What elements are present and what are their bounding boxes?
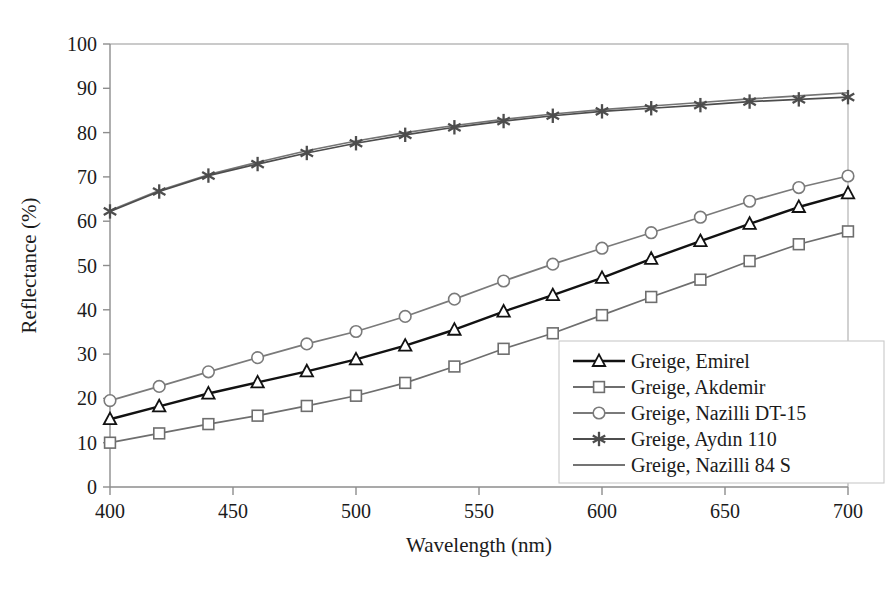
data-point-marker xyxy=(645,227,657,239)
data-point-marker xyxy=(154,428,165,439)
data-point-marker xyxy=(153,381,165,393)
y-axis-title: Reflectance (%) xyxy=(17,198,41,334)
data-point-marker xyxy=(793,182,805,194)
x-axis-title: Wavelength (nm) xyxy=(406,533,552,557)
y-tick-label: 0 xyxy=(87,476,97,498)
series-line xyxy=(110,97,848,211)
legend-item-label: Greige, Emirel xyxy=(631,350,750,373)
data-point-marker xyxy=(646,292,657,303)
x-tick-label: 400 xyxy=(95,500,125,522)
y-tick-label: 90 xyxy=(77,77,97,99)
y-tick-label: 20 xyxy=(77,387,97,409)
y-tick-label: 10 xyxy=(77,432,97,454)
data-point-marker xyxy=(842,170,854,182)
legend-item-label: Greige, Nazilli 84 S xyxy=(631,454,791,477)
series-line xyxy=(110,93,848,211)
data-point-marker xyxy=(104,395,116,407)
series-3 xyxy=(104,90,854,219)
legend-item-label: Greige, Akdemir xyxy=(631,376,766,399)
y-tick-label: 30 xyxy=(77,343,97,365)
y-tick-label: 80 xyxy=(77,122,97,144)
data-point-marker xyxy=(593,407,605,419)
x-tick-label: 700 xyxy=(833,500,863,522)
data-point-marker xyxy=(449,293,461,305)
data-point-marker xyxy=(744,256,755,267)
data-point-marker xyxy=(596,242,608,254)
data-point-marker xyxy=(744,195,756,207)
y-tick-label: 70 xyxy=(77,166,97,188)
data-point-marker xyxy=(695,211,707,223)
data-point-marker xyxy=(400,377,411,388)
data-point-marker xyxy=(105,437,116,448)
x-tick-label: 450 xyxy=(218,500,248,522)
data-point-marker xyxy=(449,361,460,372)
series-4 xyxy=(110,93,848,211)
data-point-marker xyxy=(252,410,263,421)
data-point-marker xyxy=(843,226,854,237)
data-point-marker xyxy=(301,401,312,412)
chart-legend: Greige, EmirelGreige, AkdemirGreige, Naz… xyxy=(559,341,884,483)
data-point-marker xyxy=(547,328,558,339)
legend-item-label: Greige, Nazilli DT-15 xyxy=(631,402,806,425)
y-tick-label: 60 xyxy=(77,210,97,232)
data-point-marker xyxy=(594,382,605,393)
data-point-marker xyxy=(597,310,608,321)
x-tick-label: 500 xyxy=(341,500,371,522)
data-point-marker xyxy=(350,326,362,338)
y-tick-label: 40 xyxy=(77,299,97,321)
data-point-marker xyxy=(399,311,411,323)
legend-item-label: Greige, Aydın 110 xyxy=(631,428,777,451)
data-point-marker xyxy=(252,352,264,364)
data-point-marker xyxy=(793,239,804,250)
y-tick-label: 100 xyxy=(67,33,97,55)
data-point-marker xyxy=(203,366,215,378)
data-point-marker xyxy=(203,419,214,430)
data-point-marker xyxy=(695,274,706,285)
y-tick-label: 50 xyxy=(77,255,97,277)
data-point-marker xyxy=(547,258,559,270)
x-tick-label: 650 xyxy=(710,500,740,522)
x-tick-label: 550 xyxy=(464,500,494,522)
x-tick-label: 600 xyxy=(587,500,617,522)
reflectance-chart: 0102030405060708090100400450500550600650… xyxy=(0,0,893,591)
data-point-marker xyxy=(842,187,854,199)
data-point-marker xyxy=(351,390,362,401)
data-point-marker xyxy=(498,275,510,287)
chart-canvas: 0102030405060708090100400450500550600650… xyxy=(0,0,893,591)
data-point-marker xyxy=(498,343,509,354)
data-point-marker xyxy=(301,338,313,350)
